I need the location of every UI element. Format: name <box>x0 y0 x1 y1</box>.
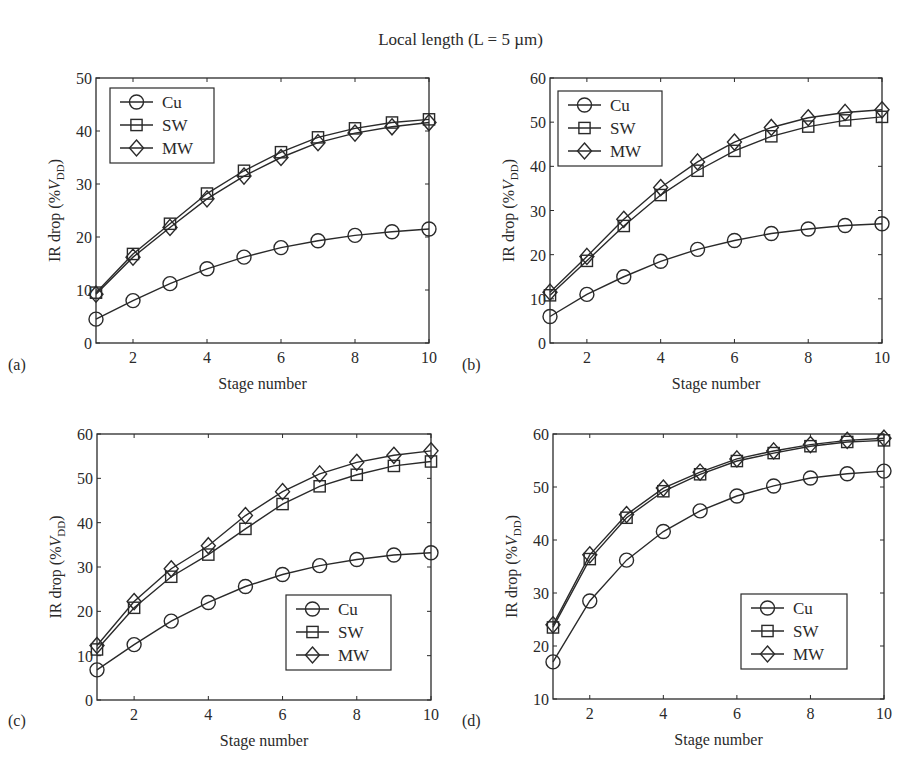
series-cu <box>543 217 889 324</box>
x-tick-label: 10 <box>423 706 439 723</box>
y-tick-label: 20 <box>77 603 93 620</box>
x-tick-label: 10 <box>874 349 890 366</box>
y-axis-label: IR drop (%VDD) <box>46 159 66 262</box>
y-tick-label: 30 <box>77 559 93 576</box>
y-tick-label: 0 <box>84 335 92 352</box>
figure-canvas: 24681001020304050Stage numberIR drop (%V… <box>0 0 921 779</box>
y-tick-label: 50 <box>533 479 549 496</box>
x-tick-label: 8 <box>804 349 812 366</box>
chart-panel-c: 2468100102030405060Stage numberIR drop (… <box>8 426 439 750</box>
y-tick-label: 10 <box>533 691 549 708</box>
legend-entry: MW <box>162 139 194 158</box>
y-tick-label: 50 <box>530 114 546 131</box>
legend-entry: MW <box>793 645 825 664</box>
y-tick-label: 30 <box>76 176 92 193</box>
legend: CuSWMW <box>558 91 662 166</box>
legend-entry: Cu <box>338 600 358 619</box>
y-tick-label: 30 <box>530 203 546 220</box>
x-axis-label: Stage number <box>220 732 309 750</box>
legend-entry: MW <box>610 142 642 161</box>
legend-entry: SW <box>338 623 364 642</box>
y-axis-label: IR drop (%VDD) <box>47 516 67 619</box>
x-tick-label: 8 <box>806 705 814 722</box>
x-tick-label: 2 <box>129 349 137 366</box>
legend-entry: SW <box>793 622 819 641</box>
x-tick-label: 4 <box>659 705 667 722</box>
x-tick-label: 6 <box>279 706 287 723</box>
legend-entry: MW <box>338 646 370 665</box>
legend-entry: SW <box>162 116 188 135</box>
x-tick-label: 8 <box>351 349 359 366</box>
x-axis-label: Stage number <box>672 375 761 393</box>
x-tick-label: 2 <box>130 706 138 723</box>
y-tick-label: 20 <box>533 638 549 655</box>
y-tick-label: 40 <box>530 158 546 175</box>
legend-entry: Cu <box>793 599 813 618</box>
x-tick-label: 4 <box>204 706 212 723</box>
y-axis-label: IR drop (%VDD) <box>500 159 520 262</box>
x-tick-label: 4 <box>657 349 665 366</box>
x-tick-label: 10 <box>876 705 892 722</box>
x-tick-label: 6 <box>733 705 741 722</box>
y-tick-label: 30 <box>533 585 549 602</box>
y-tick-label: 0 <box>85 692 93 709</box>
panel-label: (a) <box>8 356 26 374</box>
y-axis-label: IR drop (%VDD) <box>503 515 523 618</box>
y-tick-label: 60 <box>77 426 93 443</box>
x-axis-label: Stage number <box>674 731 763 749</box>
y-tick-label: 20 <box>76 229 92 246</box>
x-tick-label: 6 <box>730 349 738 366</box>
legend-entry: Cu <box>162 93 182 112</box>
y-tick-label: 40 <box>77 515 93 532</box>
y-tick-label: 60 <box>530 70 546 87</box>
series-cu <box>89 222 436 326</box>
y-tick-label: 50 <box>77 470 93 487</box>
legend: CuSWMW <box>286 595 391 670</box>
panel-label: (d) <box>462 712 481 730</box>
x-tick-label: 6 <box>277 349 285 366</box>
legend: CuSWMW <box>741 594 847 669</box>
y-tick-label: 60 <box>533 426 549 443</box>
panel-label: (c) <box>8 712 26 730</box>
chart-panel-a: 24681001020304050Stage numberIR drop (%V… <box>8 70 437 393</box>
y-tick-label: 50 <box>76 70 92 87</box>
chart-panel-b: 2468100102030405060Stage numberIR drop (… <box>462 70 890 393</box>
y-tick-label: 20 <box>530 247 546 264</box>
x-tick-label: 2 <box>586 705 594 722</box>
legend: CuSWMW <box>110 88 214 163</box>
y-tick-label: 40 <box>533 532 549 549</box>
panel-label: (b) <box>462 356 481 374</box>
x-axis-label: Stage number <box>218 375 307 393</box>
y-tick-label: 0 <box>538 335 546 352</box>
x-tick-label: 2 <box>583 349 591 366</box>
chart-panel-d: 246810102030405060Stage numberIR drop (%… <box>462 426 892 749</box>
y-tick-label: 40 <box>76 123 92 140</box>
x-tick-label: 4 <box>203 349 211 366</box>
y-tick-label: 10 <box>76 282 92 299</box>
y-tick-label: 10 <box>77 648 93 665</box>
legend-entry: SW <box>610 119 636 138</box>
x-tick-label: 8 <box>353 706 361 723</box>
legend-entry: Cu <box>610 96 630 115</box>
x-tick-label: 10 <box>421 349 437 366</box>
